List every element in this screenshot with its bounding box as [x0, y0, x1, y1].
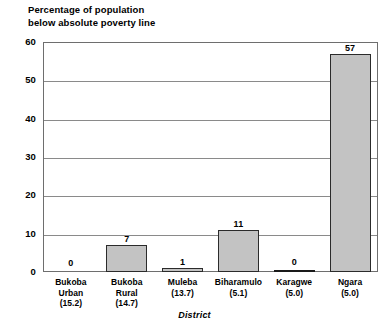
chart-title: Percentage of population below absolute …	[28, 4, 155, 29]
bar	[330, 54, 371, 273]
bar-value-label: 57	[316, 43, 385, 53]
bar-slot: 7	[106, 42, 147, 272]
gridline	[44, 196, 377, 197]
bar-value-label: 1	[148, 257, 217, 267]
y-axis-tick-label: 0	[2, 267, 36, 277]
bar-value-label: 7	[92, 234, 161, 244]
y-axis-tick-label: 50	[2, 75, 36, 85]
y-axis-tick-label: 60	[2, 37, 36, 47]
x-axis-category-label: Ngara (5.0)	[322, 277, 378, 298]
x-axis-category-label: Bukoba Urban (15.2)	[43, 277, 99, 309]
bar	[218, 230, 259, 272]
bar-slot: 11	[218, 42, 259, 272]
bar-value-label: 0	[260, 257, 329, 267]
x-axis-category-label: Karagwe (5.0)	[266, 277, 322, 298]
bar-value-label: 11	[204, 219, 273, 229]
gridline	[44, 120, 377, 121]
bar	[162, 268, 203, 272]
x-axis-category-label: Bukoba Rural (14.7)	[99, 277, 155, 309]
y-axis-tick-label: 10	[2, 229, 36, 239]
bar-slot: 57	[330, 42, 371, 272]
y-axis-tick-label: 40	[2, 114, 36, 124]
x-axis-category-label: Muleba (13.7)	[155, 277, 211, 298]
x-axis-title: District	[0, 310, 389, 320]
gridline	[44, 81, 377, 82]
bar	[274, 270, 315, 272]
bar-slot: 0	[274, 42, 315, 272]
y-axis-tick-label: 30	[2, 152, 36, 162]
bar-slot: 0	[50, 42, 91, 272]
x-axis-category-label: Biharamulo (5.1)	[211, 277, 267, 298]
bar-value-label: 0	[36, 258, 105, 268]
bar-slot: 1	[162, 42, 203, 272]
gridline	[44, 158, 377, 159]
bar	[106, 245, 147, 272]
y-axis-tick-label: 20	[2, 190, 36, 200]
